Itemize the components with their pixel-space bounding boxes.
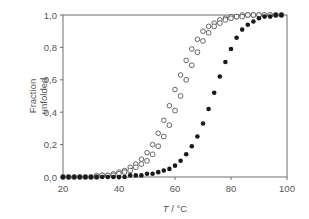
plot-frame [63,15,287,177]
y-axis-title: Fraction unfolded [27,78,49,114]
data-point [268,14,273,19]
data-series [61,13,284,180]
data-point [134,173,139,178]
x-axis-title-unit: / °C [169,203,188,214]
data-point [83,175,88,180]
data-point [128,168,132,172]
data-point [111,175,116,180]
data-point [167,103,172,108]
data-point [139,173,144,178]
data-point [145,171,150,176]
data-point [94,175,99,180]
chart: 0,00,20,40,60,81,0 20406080100 Fraction … [0,0,309,219]
data-point [89,175,94,180]
y-tick-label: 0,8 [44,42,57,53]
data-point [218,74,223,79]
data-point [156,144,160,148]
data-point [206,24,211,29]
data-point [178,94,182,98]
data-point [178,73,183,78]
data-point [223,18,227,22]
data-point [167,123,171,127]
data-point [156,170,161,175]
data-point [162,134,166,138]
data-point [150,142,155,147]
data-point [134,165,138,169]
data-point [173,163,178,168]
data-point [229,47,234,52]
data-point [262,14,267,19]
data-point [251,19,256,24]
data-point [61,175,66,180]
data-point [212,90,217,95]
x-tick-label: 80 [226,183,237,194]
data-point [78,175,83,180]
svg-text:T / °C: T / °C [163,203,188,214]
data-point [206,107,211,112]
data-point [156,131,161,136]
x-axis-ticks: 20406080100 [58,177,295,194]
x-tick-label: 40 [114,183,125,194]
data-point [139,162,143,166]
data-point [190,47,195,52]
data-point [139,157,144,162]
data-point [218,21,222,25]
data-point [106,175,111,180]
data-point [150,171,155,176]
data-point [229,16,233,20]
data-point [145,150,150,155]
data-point [184,152,189,157]
data-point [240,14,244,18]
data-point [150,152,154,156]
x-axis-title: T / °C [163,203,188,214]
data-point [279,13,284,18]
data-point [145,159,149,163]
data-point [162,118,167,123]
data-point [251,13,255,17]
data-point [167,167,172,172]
x-tick-label: 100 [279,183,295,194]
y-axis-title-line-1: Fraction [27,79,38,113]
data-point [100,175,105,180]
series-open-circles [61,13,284,180]
data-point [195,50,199,54]
data-point [122,170,126,174]
data-point [72,175,77,180]
series-open-squares [61,13,284,179]
data-point [201,39,205,43]
data-point [234,14,238,18]
data-point [223,60,228,65]
data-point [234,35,239,40]
series-filled-circles [61,13,284,180]
data-point [66,175,71,180]
data-point [201,121,206,126]
data-point [240,27,245,32]
data-point [122,175,127,180]
data-point [195,37,200,42]
data-point [195,134,200,139]
x-tick-label: 60 [170,183,181,194]
data-point [246,22,251,27]
data-point [117,175,122,180]
data-point [246,13,250,17]
data-point [178,159,183,164]
data-point [173,87,178,92]
x-tick-label: 20 [58,183,69,194]
y-tick-label: 0,0 [44,172,57,183]
data-point [184,78,188,82]
y-tick-label: 0,2 [44,139,57,150]
data-point [212,24,216,28]
data-point [206,31,210,35]
data-point [128,173,133,178]
data-point [201,29,206,34]
y-tick-label: 1,0 [44,10,57,21]
data-point [190,63,194,67]
data-point [162,168,167,173]
data-point [257,16,262,21]
data-point [274,13,279,18]
data-point [184,58,189,63]
plot-border [63,15,287,177]
data-point [190,144,195,149]
data-point [173,108,177,112]
y-axis-title-line-2: unfolded [38,78,49,114]
